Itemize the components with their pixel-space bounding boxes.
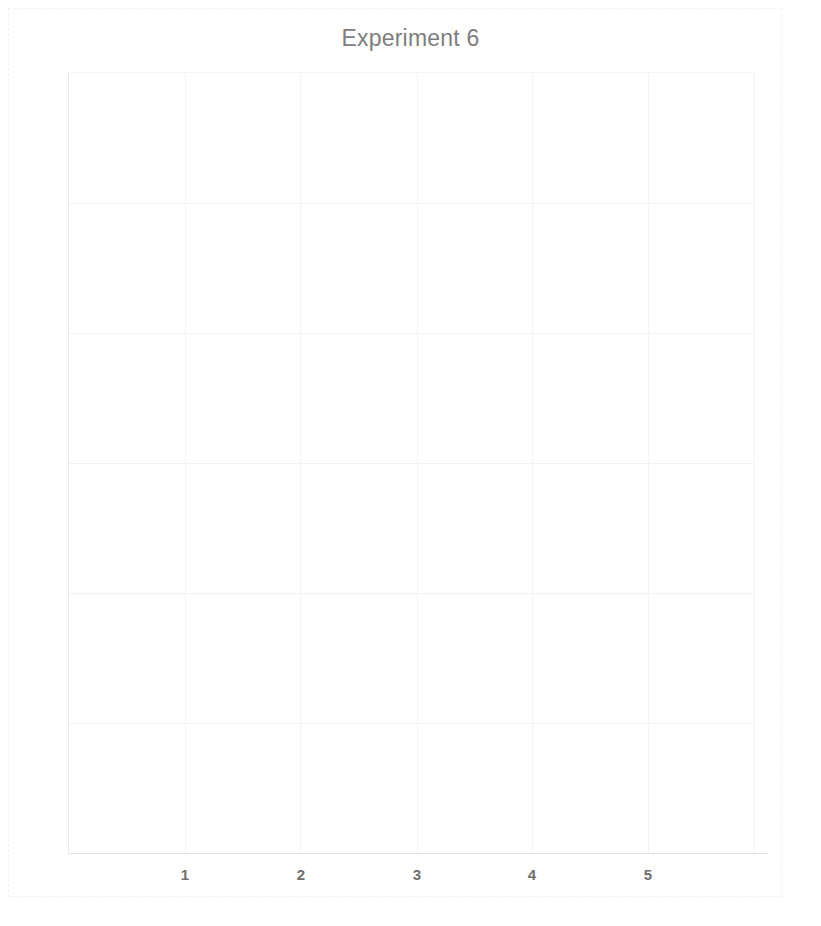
x-tick-label-4: 4 <box>512 866 552 884</box>
x-tick-label-1: 1 <box>165 866 205 884</box>
x-tick-label-5: 5 <box>628 866 668 884</box>
x-tick-label-2: 2 <box>281 866 321 884</box>
x-tick-label-3: 3 <box>397 866 437 884</box>
plot-area <box>68 72 755 853</box>
chart-figure: Experiment 6 12345 <box>0 0 821 926</box>
x-axis-line <box>68 853 768 854</box>
data-series-layer <box>68 72 755 853</box>
chart-title: Experiment 6 <box>0 24 821 52</box>
